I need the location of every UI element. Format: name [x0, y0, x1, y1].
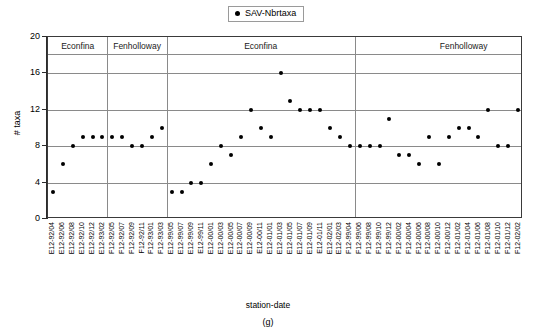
data-point — [368, 144, 372, 148]
data-point — [506, 144, 510, 148]
panel-divider — [355, 37, 356, 217]
x-tick-label: E12-01/11 — [316, 222, 323, 254]
data-point — [81, 135, 85, 139]
x-tick-label: E12-01/01 — [266, 222, 273, 254]
x-tick-label: F12-00/02 — [395, 222, 402, 254]
data-point — [397, 153, 401, 157]
x-tick-label: E12-99/05 — [167, 222, 174, 254]
x-tick-label: E12-92/08 — [68, 222, 75, 254]
panel-label-0: Econfina — [48, 41, 107, 51]
figure-root: SAV-Nbrtaxa 048121620 # taxa EconfinaFen… — [0, 0, 536, 335]
panel-label-1: Fenholloway — [107, 41, 166, 51]
x-tick-label: F12-93/01 — [147, 222, 154, 254]
x-tick-label: E12-92/10 — [78, 222, 85, 254]
x-tick-label: F12-92/09 — [128, 222, 135, 254]
data-point — [288, 99, 292, 103]
x-tick-label: E12-00/05 — [227, 222, 234, 254]
x-tick-label: F12-00/12 — [444, 222, 451, 254]
y-tick-label-20: 20 — [2, 31, 40, 41]
data-point — [199, 181, 203, 185]
x-tick-label: F12-00/08 — [424, 222, 431, 254]
x-axis-label: station-date — [0, 300, 536, 310]
x-tick-label: E12-00/09 — [246, 222, 253, 254]
panel-label-3: Fenholloway — [355, 41, 536, 51]
data-point — [71, 144, 75, 148]
x-tick-label: E12-92/06 — [58, 222, 65, 254]
y-tick-label-0: 0 — [2, 213, 40, 223]
data-point — [437, 162, 441, 166]
x-tick-label: F12-01/02 — [454, 222, 461, 254]
x-tick-label: E12-01/09 — [306, 222, 313, 254]
x-tick-label: F12-99/12 — [385, 222, 392, 254]
data-point — [100, 135, 104, 139]
x-tick-label: F12-01/12 — [504, 222, 511, 254]
data-point — [467, 126, 471, 130]
x-tick-label: F12-02/02 — [514, 222, 521, 254]
x-tick-label: E12-00/01 — [207, 222, 214, 254]
data-point — [516, 108, 520, 112]
legend-label: SAV-Nbrtaxa — [245, 8, 296, 19]
panel-header-rule — [48, 54, 521, 55]
x-tick-label: E12-02/03 — [335, 222, 342, 254]
data-point — [259, 126, 263, 130]
x-tick-label: F12-99/10 — [375, 222, 382, 254]
x-tick-label: F12-00/10 — [434, 222, 441, 254]
data-point — [229, 153, 233, 157]
data-point — [279, 71, 283, 75]
panel-divider — [167, 37, 168, 217]
x-tick-label: F12-92/11 — [138, 222, 145, 253]
data-point — [269, 135, 273, 139]
x-axis-ticks: E12-92/04E12-92/06E12-92/08E12-92/10E12-… — [47, 222, 522, 298]
x-tick-label: F12-92/07 — [118, 222, 125, 254]
x-tick-label: F12-01/08 — [484, 222, 491, 254]
x-tick-label: F12-99/06 — [355, 222, 362, 254]
data-point — [318, 108, 322, 112]
data-point — [239, 135, 243, 139]
data-point — [150, 135, 154, 139]
legend: SAV-Nbrtaxa — [228, 6, 304, 22]
data-point — [417, 162, 421, 166]
data-point — [120, 135, 124, 139]
legend-marker-icon — [235, 11, 240, 16]
data-point — [308, 108, 312, 112]
x-tick-label: F12-01/10 — [494, 222, 501, 254]
x-tick-label: F12-99/04 — [345, 222, 352, 254]
x-tick-label: E12-00/03 — [217, 222, 224, 254]
panel-divider — [107, 37, 108, 217]
data-point — [180, 190, 184, 194]
data-point — [298, 108, 302, 112]
x-tick-label: F12-01/04 — [464, 222, 471, 254]
data-point — [328, 126, 332, 130]
y-axis-label: # taxa — [12, 93, 22, 153]
data-point — [427, 135, 431, 139]
data-point — [170, 190, 174, 194]
data-point — [51, 190, 55, 194]
x-tick-label: F12-93/03 — [157, 222, 164, 254]
figure-caption: (g) — [0, 317, 536, 327]
x-tick-label: E12-99/07 — [177, 222, 184, 254]
x-tick-label: E12-00/07 — [236, 222, 243, 254]
y-tick-label-16: 16 — [2, 67, 40, 77]
x-tick-label: E12-01/05 — [286, 222, 293, 254]
y-axis-ticks: 048121620 — [0, 0, 40, 335]
data-point — [378, 144, 382, 148]
data-point — [387, 117, 391, 121]
gridline-y-12 — [48, 110, 521, 111]
data-point — [486, 108, 490, 112]
x-tick-label: E12-99/09 — [187, 222, 194, 254]
data-point — [130, 144, 134, 148]
x-tick-label: E12-02/01 — [326, 222, 333, 254]
data-point — [140, 144, 144, 148]
data-point — [110, 135, 114, 139]
panel-label-2: Econfina — [167, 41, 355, 51]
gridline-y-16 — [48, 73, 521, 74]
data-point — [91, 135, 95, 139]
x-tick-label: E12-92/04 — [48, 222, 55, 254]
x-tick-label: E12-99/11 — [197, 222, 204, 254]
gridline-y-8 — [48, 146, 521, 147]
data-point — [348, 144, 352, 148]
data-point — [209, 162, 213, 166]
x-tick-label: F12-92/05 — [108, 222, 115, 254]
x-tick-label: F12-99/08 — [365, 222, 372, 254]
data-point — [457, 126, 461, 130]
